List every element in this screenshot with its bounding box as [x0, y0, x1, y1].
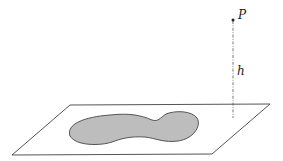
height-label: h — [237, 64, 245, 78]
point-p — [232, 19, 235, 22]
point-label: P — [237, 8, 247, 22]
diagram-canvas: P h — [0, 0, 283, 161]
